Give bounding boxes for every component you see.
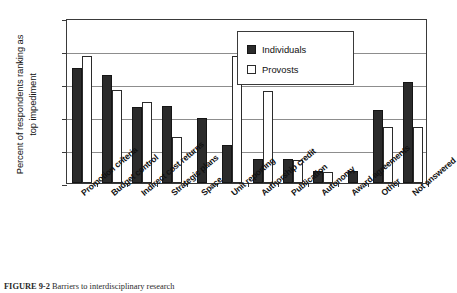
bar-individuals xyxy=(403,82,413,183)
bar-provosts xyxy=(413,127,423,183)
figure-caption-text: Barriers to interdisciplinary research xyxy=(52,282,175,291)
legend-label-individuals: Individuals xyxy=(262,44,306,55)
chart-legend: Individuals Provosts xyxy=(237,31,354,85)
figure-caption: FIGURE 9-2 Barriers to interdisciplinary… xyxy=(4,282,175,291)
bar-provosts xyxy=(82,56,92,183)
legend-item-individuals: Individuals xyxy=(247,39,353,59)
legend-swatch-provosts xyxy=(247,65,256,74)
y-axis-title: Percent of respondents ranking as top im… xyxy=(14,15,39,195)
legend-swatch-individuals xyxy=(247,45,256,54)
figure-caption-number: FIGURE 9-2 xyxy=(4,282,50,291)
legend-item-provosts: Provosts xyxy=(247,59,353,79)
legend-label-provosts: Provosts xyxy=(262,64,298,75)
y-tick-mark xyxy=(62,185,67,186)
bar-group xyxy=(67,20,97,183)
bar-individuals xyxy=(72,68,82,183)
bar-group xyxy=(398,20,428,183)
bar-individuals xyxy=(222,145,232,183)
